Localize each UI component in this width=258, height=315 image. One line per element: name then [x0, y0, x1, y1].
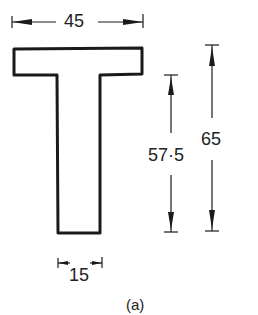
t-section-diagram	[0, 0, 258, 315]
figure-caption: (a)	[126, 297, 144, 312]
label-stem-width: 15	[69, 266, 89, 284]
label-total-height: 65	[201, 130, 221, 148]
label-flange-width: 45	[64, 12, 84, 30]
label-stem-height: 57·5	[148, 146, 184, 164]
t-section-outline	[14, 48, 142, 233]
